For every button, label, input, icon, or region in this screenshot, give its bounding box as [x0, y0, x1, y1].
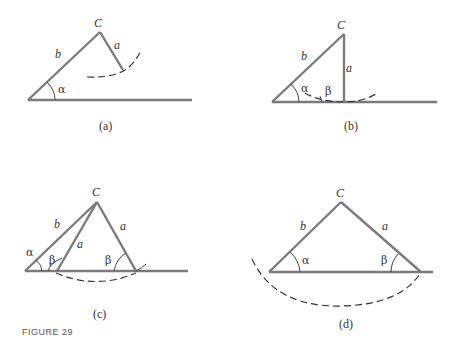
vertex-c-label: C: [337, 18, 346, 32]
angle-alpha-label: α: [302, 254, 310, 267]
side-b: [25, 202, 97, 271]
side-a-label: a: [114, 38, 120, 52]
figure-canvas: C b a α (a) C b a α β (b) C b a a α β: [0, 0, 457, 350]
angle-alpha-arc: [291, 84, 299, 102]
dashed-arc: [252, 259, 421, 306]
panel-b: C b a α β (b): [272, 18, 437, 133]
panel-d: C b a α β (d): [252, 186, 433, 331]
side-b-label: b: [54, 217, 60, 231]
side-b-label: b: [55, 47, 61, 61]
angle-beta-inner-label: β: [49, 254, 55, 267]
side-a-label: a: [346, 61, 352, 75]
side-a-inner-label: a: [77, 237, 83, 251]
angle-beta-label: β: [325, 85, 331, 98]
side-b-label: b: [300, 219, 306, 233]
dashed-arc: [305, 93, 376, 102]
panel-label: (d): [339, 317, 353, 331]
side-a-outer-label: a: [120, 219, 126, 233]
panel-a: C b a α (a): [28, 16, 192, 133]
vertex-c-label: C: [92, 185, 101, 199]
angle-alpha-label: α: [301, 82, 309, 95]
panel-c: C b a a α β β (c): [25, 185, 188, 321]
side-a-label: a: [382, 219, 388, 233]
side-b-label: b: [301, 49, 307, 63]
angle-beta-label: β: [381, 254, 387, 267]
angle-beta-outer-label: β: [105, 254, 111, 267]
angle-alpha-label: α: [26, 246, 34, 259]
vertex-c-label: C: [94, 16, 103, 30]
panel-label: (c): [93, 307, 106, 321]
angle-alpha-arc: [47, 82, 55, 100]
side-a-outer: [97, 202, 136, 271]
vertex-c-label: C: [336, 186, 345, 200]
angle-alpha-arc: [36, 260, 42, 271]
angle-alpha-arc: [290, 252, 300, 272]
dashed-arc: [56, 273, 136, 282]
figure-caption: FIGURE 29: [22, 327, 73, 337]
angle-beta-arc: [391, 254, 398, 272]
panel-label: (a): [99, 119, 112, 133]
angle-beta-outer-arc: [114, 253, 126, 271]
panel-label: (b): [344, 119, 358, 133]
angle-alpha-label: α: [58, 83, 66, 96]
